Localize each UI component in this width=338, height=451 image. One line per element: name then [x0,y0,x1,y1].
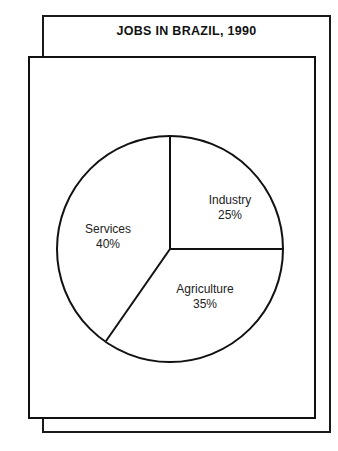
pie-chart [0,0,338,451]
slice-label-agriculture: Agriculture 35% [160,282,250,312]
slice-label-services: Services 40% [73,222,143,252]
slice-label-industry: Industry 25% [190,193,270,223]
